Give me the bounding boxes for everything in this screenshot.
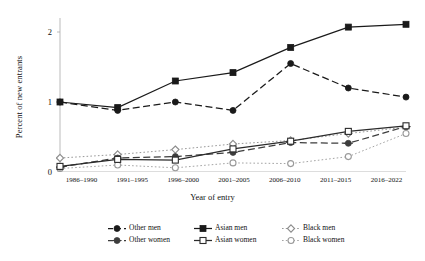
legend-label: Other women: [129, 236, 170, 244]
y-axis-title: Percent of new entrants: [14, 22, 24, 172]
legend-marker-icon: [194, 236, 212, 245]
x-tick-label: 1991–1995: [107, 176, 158, 184]
x-tick-label: 2011–2015: [310, 176, 361, 184]
legend-item-asian-women[interactable]: Asian women: [194, 234, 282, 246]
line-chart-figure: Percent of new entrants 012 1986–1990199…: [0, 0, 425, 261]
chart-legend: Other menAsian menBlack menOther womenAs…: [108, 222, 378, 246]
legend-item-asian-men[interactable]: Asian men: [194, 222, 282, 234]
legend-label: Black men: [303, 224, 335, 232]
x-tick-label: 2001–2005: [209, 176, 260, 184]
legend-label: Asian women: [215, 236, 256, 244]
series-black-men: [56, 124, 409, 162]
y-tick-label: 1: [48, 98, 52, 107]
series-other-men: [57, 61, 409, 114]
x-tick-label: 1996–2000: [158, 176, 209, 184]
series-asian-men: [57, 21, 409, 110]
plot-area: 012: [56, 18, 412, 172]
legend-marker-icon: [282, 224, 300, 233]
legend-item-other-women[interactable]: Other women: [108, 234, 194, 246]
x-tick-label: 2006–2010: [259, 176, 310, 184]
legend-marker-icon: [282, 236, 300, 245]
legend-marker-icon: [108, 236, 126, 245]
legend-item-black-women[interactable]: Black women: [282, 234, 366, 246]
legend-label: Other men: [129, 224, 161, 232]
x-tick-label: 1986–1990: [56, 176, 107, 184]
x-axis-title: Year of entry: [0, 192, 425, 202]
legend-item-other-men[interactable]: Other men: [108, 222, 194, 234]
x-axis-ticks: 1986–19901991–19951996–20002001–20052006…: [56, 176, 412, 184]
y-tick-label: 2: [48, 28, 52, 37]
chart-canvas: [56, 18, 412, 172]
legend-marker-icon: [108, 224, 126, 233]
legend-item-black-men[interactable]: Black men: [282, 222, 366, 234]
legend-label: Asian men: [215, 224, 247, 232]
y-tick-label: 0: [48, 168, 52, 177]
legend-marker-icon: [194, 224, 212, 233]
x-tick-label: 2016–2022: [361, 176, 412, 184]
legend-label: Black women: [303, 236, 344, 244]
